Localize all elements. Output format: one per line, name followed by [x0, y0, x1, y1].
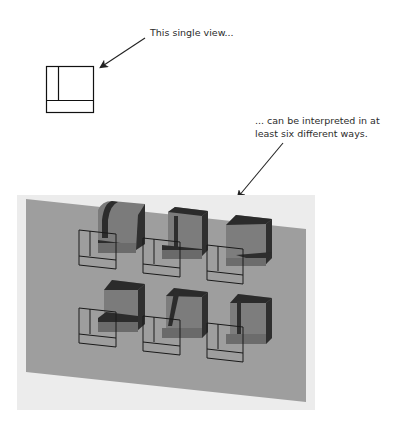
caption-line-2: least six different ways.: [255, 127, 380, 140]
caption-interpretations: ... can be interpreted in at least six d…: [255, 114, 380, 140]
diagram-figure: [0, 0, 402, 428]
solid-r1c2: [162, 207, 208, 259]
arrow-to-single-view: [101, 38, 145, 67]
solid-r2c3: [226, 294, 272, 344]
solid-r1c1: [98, 201, 145, 253]
caption-line-1: ... can be interpreted in at: [255, 114, 380, 127]
arrow-to-plane: [238, 143, 283, 197]
single-view-drawing: [47, 67, 94, 113]
solid-r1c3: [226, 215, 272, 266]
caption-single-view: This single view...: [150, 26, 234, 39]
solid-r2c2: [162, 288, 208, 338]
